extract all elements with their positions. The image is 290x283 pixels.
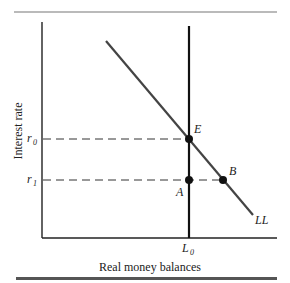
point-e-label: E: [193, 122, 202, 136]
y-tick-r0-sub: 0: [33, 138, 37, 147]
money-market-diagram: E A B LL r 0 r 1 L 0 Real money balances…: [0, 0, 290, 283]
y-tick-r0: r 0: [27, 131, 37, 147]
point-b-label: B: [229, 164, 237, 178]
point-e: [185, 135, 193, 143]
x-axis-title: Real money balances: [99, 260, 201, 274]
y-tick-r1-base: r: [27, 172, 32, 186]
y-tick-r0-base: r: [27, 131, 32, 145]
y-axis-title: Interest rate: [11, 103, 25, 160]
y-tick-r1: r 1: [27, 172, 37, 188]
y-tick-r1-sub: 1: [33, 179, 37, 188]
x-tick-l0: L 0: [181, 241, 194, 257]
point-a: [185, 176, 193, 184]
point-b: [219, 176, 227, 184]
point-a-label: A: [175, 185, 184, 199]
x-tick-l0-base: L: [181, 241, 189, 255]
bottom-rule: [16, 277, 277, 280]
ll-curve-label: LL: [254, 213, 269, 227]
x-tick-l0-sub: 0: [190, 248, 194, 257]
